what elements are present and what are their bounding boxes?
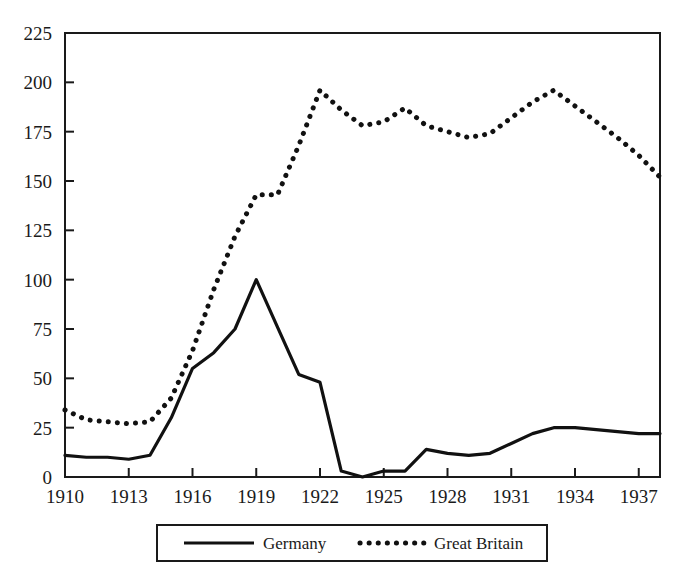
- x-axis-tick-label: 1937: [620, 486, 658, 507]
- line-chart: 0255075100125150175200225191019131916191…: [0, 0, 680, 585]
- y-axis-tick-label: 100: [24, 270, 53, 291]
- y-axis-tick-label: 75: [33, 319, 52, 340]
- x-axis-tick-label: 1919: [237, 486, 275, 507]
- y-axis-tick-label: 125: [24, 220, 53, 241]
- legend-label-germany: Germany: [263, 534, 327, 553]
- y-axis-tick-label: 150: [24, 171, 53, 192]
- x-axis-tick-label: 1910: [46, 486, 84, 507]
- x-axis-tick-label: 1931: [492, 486, 530, 507]
- legend-label-great-britain: Great Britain: [434, 534, 524, 553]
- y-axis-tick-label: 25: [33, 418, 52, 439]
- y-axis-tick-label: 175: [24, 122, 53, 143]
- x-axis-tick-label: 1934: [556, 486, 595, 507]
- y-axis-tick-label: 200: [24, 72, 53, 93]
- x-axis-tick-label: 1916: [174, 486, 212, 507]
- y-axis-tick-label: 225: [24, 23, 53, 44]
- x-axis-tick-label: 1925: [365, 486, 403, 507]
- x-axis-tick-label: 1928: [429, 486, 467, 507]
- plot-frame: [65, 33, 660, 477]
- x-axis-tick-label: 1913: [110, 486, 148, 507]
- y-axis-tick-label: 0: [43, 467, 53, 488]
- y-axis-tick-label: 50: [33, 368, 52, 389]
- x-axis-tick-label: 1922: [301, 486, 339, 507]
- chart-figure: 0255075100125150175200225191019131916191…: [0, 0, 680, 585]
